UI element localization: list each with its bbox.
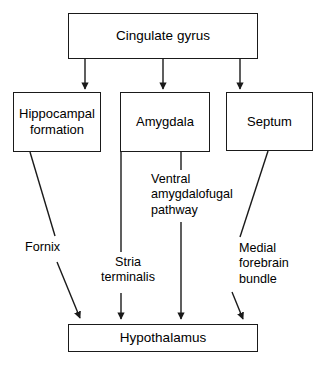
- edge-medial-forebrain-bundle-lower: [232, 292, 243, 319]
- node-septum[interactable]: Septum: [226, 92, 313, 151]
- node-hippocampal-formation[interactable]: Hippocampal formation: [13, 92, 101, 152]
- edge-label-medial-forebrain-bundle: Medial forebrain bundle: [239, 241, 289, 287]
- edge-label-fornix: Fornix: [25, 240, 60, 255]
- diagram-canvas: Cingulate gyrus Hippocampal formation Am…: [0, 0, 320, 365]
- node-label: Amygdala: [134, 114, 196, 130]
- edge-fornix-lower: [57, 262, 80, 318]
- node-label: Hippocampal formation: [17, 106, 97, 138]
- edge-medial-forebrain-bundle-upper: [240, 151, 268, 237]
- node-label: Cingulate gyrus: [114, 28, 212, 44]
- node-cingulate-gyrus[interactable]: Cingulate gyrus: [68, 13, 258, 59]
- node-hypothalamus[interactable]: Hypothalamus: [68, 324, 258, 352]
- node-label: Hypothalamus: [118, 330, 208, 346]
- edge-label-stria-terminalis: Stria terminalis: [97, 255, 159, 286]
- edge-fornix-upper: [30, 152, 55, 236]
- edge-label-ventral-amygdalofugal-pathway: Ventral amygdalofugal pathway: [151, 172, 233, 218]
- node-amygdala[interactable]: Amygdala: [120, 92, 210, 152]
- node-label: Septum: [245, 114, 294, 130]
